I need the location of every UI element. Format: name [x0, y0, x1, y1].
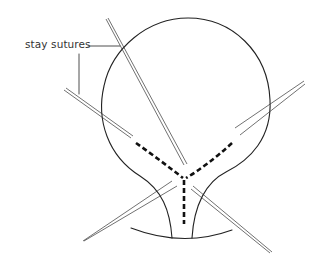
- stay-suture-lower-left: [83, 181, 177, 241]
- organ-outline-left: [102, 18, 271, 238]
- stay-suture-left: [64, 88, 133, 138]
- stay-suture-top: [106, 18, 187, 165]
- base-arc: [131, 228, 232, 239]
- stay-sutures-label: stay sutures: [25, 38, 91, 50]
- incision-left-arm: [136, 143, 183, 178]
- stay-suture-lower-right: [191, 186, 272, 253]
